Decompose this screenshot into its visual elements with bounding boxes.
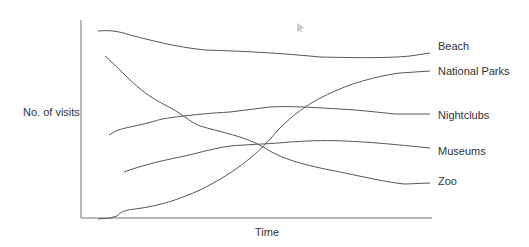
series-line-beach	[98, 31, 430, 58]
series-line-national-parks	[98, 71, 430, 219]
x-axis-label: Time	[255, 226, 279, 238]
series-label-nightclubs: Nightclubs	[438, 109, 489, 121]
line-chart	[0, 0, 529, 247]
series-label-zoo: Zoo	[438, 175, 457, 187]
series-label-museums: Museums	[438, 145, 486, 157]
y-axis-label: No. of visits	[23, 106, 80, 118]
series-line-nightclubs	[109, 107, 430, 135]
series-line-zoo	[105, 56, 430, 184]
mouse-cursor-icon	[297, 23, 305, 33]
series-label-beach: Beach	[438, 40, 469, 52]
series-label-national-parks: National Parks	[438, 65, 510, 77]
series-line-museums	[124, 141, 430, 172]
